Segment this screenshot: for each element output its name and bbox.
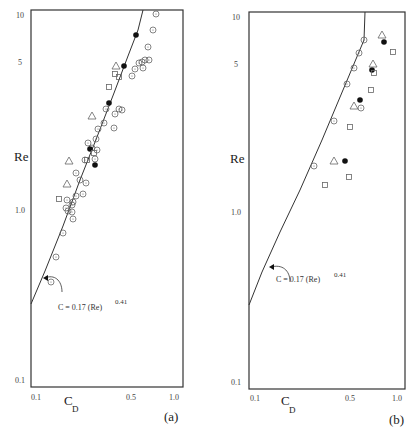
ytick-01-b: 0.1 bbox=[231, 378, 241, 387]
xtick-05-a: 0.5 bbox=[126, 393, 136, 402]
xtick-10-b: 1.0 bbox=[392, 394, 402, 403]
marker-filled-circle bbox=[133, 32, 139, 38]
marker-open-circle bbox=[80, 191, 86, 197]
ytick-1-b: 1.0 bbox=[231, 208, 241, 217]
ytick-5-a: 5 bbox=[18, 58, 22, 67]
marker-filled-circle bbox=[121, 63, 127, 69]
marker-open-square bbox=[107, 85, 112, 90]
marker-open-circle bbox=[112, 111, 118, 117]
marker-open-triangle bbox=[378, 31, 386, 38]
svg-text:0.41: 0.41 bbox=[334, 271, 347, 279]
marker-open-triangle bbox=[350, 102, 358, 109]
marker-open-circle bbox=[85, 140, 91, 146]
marker-open-circle bbox=[93, 136, 99, 142]
marker-open-circle bbox=[344, 81, 350, 87]
ytick-1-a: 1.0 bbox=[15, 206, 25, 215]
annotation-b: C = 0.17 (Re) 0.41 bbox=[276, 271, 347, 284]
marker-open-square bbox=[347, 175, 352, 180]
fit-line-a bbox=[31, 10, 143, 304]
arrowhead-icon-b bbox=[269, 264, 274, 270]
ytick-10-a: 10 bbox=[16, 11, 24, 20]
marker-open-circle bbox=[145, 44, 151, 50]
marker-open-circle bbox=[111, 125, 117, 131]
marker-open-circle bbox=[311, 163, 317, 169]
marker-open-circle bbox=[94, 147, 100, 153]
marker-filled-circle bbox=[369, 67, 375, 73]
marker-open-circle bbox=[60, 230, 66, 236]
marker-filled-circle bbox=[87, 146, 93, 152]
svg-text:D: D bbox=[72, 404, 79, 414]
marker-filled-circle bbox=[106, 100, 112, 106]
xtick-01-b: 0.1 bbox=[250, 394, 260, 403]
marker-open-triangle bbox=[63, 180, 71, 187]
marker-open-circle bbox=[73, 170, 79, 176]
marker-filled-circle bbox=[342, 158, 348, 164]
marker-open-circle bbox=[150, 27, 156, 33]
marker-open-circle bbox=[140, 65, 146, 71]
xtick-01-a: 0.1 bbox=[31, 393, 41, 402]
marker-open-square bbox=[323, 183, 328, 188]
svg-text:0.41: 0.41 bbox=[115, 298, 128, 306]
marker-open-triangle bbox=[330, 157, 338, 164]
marker-open-circle bbox=[331, 118, 337, 124]
marker-open-circle bbox=[129, 73, 135, 79]
marker-open-square bbox=[57, 197, 62, 202]
marker-filled-circle bbox=[92, 162, 98, 168]
marker-open-circle bbox=[358, 105, 364, 111]
marker-open-circle bbox=[69, 209, 75, 215]
marker-open-triangle bbox=[88, 112, 96, 119]
xlabel-a: C D bbox=[64, 393, 79, 414]
marker-open-circle bbox=[64, 197, 70, 203]
ytick-10-b: 10 bbox=[232, 13, 240, 22]
markers-b bbox=[311, 31, 396, 188]
marker-open-circle bbox=[83, 180, 89, 186]
panel-label-b: (b) bbox=[389, 412, 404, 427]
marker-open-triangle bbox=[369, 60, 377, 67]
marker-open-circle bbox=[132, 66, 138, 72]
marker-open-circle bbox=[53, 254, 59, 260]
svg-text:C = 0.17 (Re): C = 0.17 (Re) bbox=[58, 303, 102, 312]
figure-canvas: 10 5 1.0 0.1 Re 0.1 0.5 1.0 C D (a) C = … bbox=[0, 0, 416, 435]
fit-line-b bbox=[249, 12, 365, 305]
plot-frame-b bbox=[249, 12, 405, 389]
markers-a bbox=[48, 11, 159, 285]
marker-open-triangle bbox=[112, 62, 120, 69]
xlabel-b: C D bbox=[281, 393, 296, 415]
marker-open-circle bbox=[77, 177, 83, 183]
xtick-05-b: 0.5 bbox=[345, 394, 355, 403]
marker-filled-circle bbox=[381, 39, 387, 45]
marker-filled-circle bbox=[357, 97, 363, 103]
ylabel-a: Re bbox=[14, 149, 29, 164]
marker-open-square bbox=[391, 50, 396, 55]
panel-label-a: (a) bbox=[164, 409, 178, 424]
marker-open-square bbox=[348, 125, 353, 130]
svg-text:C = 0.17 (Re): C = 0.17 (Re) bbox=[276, 275, 320, 284]
plot-frame-a bbox=[31, 10, 183, 387]
marker-open-triangle bbox=[65, 157, 73, 164]
marker-open-circle bbox=[153, 11, 159, 17]
ylabel-b: Re bbox=[230, 151, 245, 166]
ytick-01-a: 0.1 bbox=[15, 376, 25, 385]
panel-b: 10 5 1.0 0.1 Re 0.1 0.5 1.0 C D (b) C = … bbox=[230, 12, 405, 427]
arrowhead-icon-a bbox=[43, 275, 48, 281]
marker-open-square bbox=[369, 88, 374, 93]
xtick-10-a: 1.0 bbox=[169, 393, 179, 402]
ytick-5-b: 5 bbox=[234, 60, 238, 69]
svg-text:D: D bbox=[289, 405, 296, 415]
annotation-a: C = 0.17 (Re) 0.41 bbox=[58, 298, 128, 312]
marker-open-circle bbox=[92, 156, 98, 162]
panel-a: 10 5 1.0 0.1 Re 0.1 0.5 1.0 C D (a) C = … bbox=[14, 10, 183, 424]
marker-open-circle bbox=[48, 279, 54, 285]
marker-open-circle bbox=[70, 216, 76, 222]
